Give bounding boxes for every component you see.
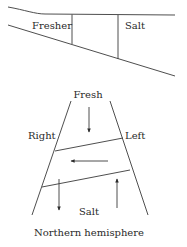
caption: Northern hemisphere (34, 227, 144, 238)
salt-label: Salt (79, 206, 99, 217)
salt-label: Salt (125, 20, 145, 31)
left-bank-line (110, 101, 148, 215)
right-bank-line (32, 101, 71, 215)
estuary-diagram: Fresher Salt Fresh Right Left Salt North… (0, 0, 187, 247)
right-label: Right (28, 130, 56, 141)
estuary-cross-section: Fresher Salt (8, 7, 175, 76)
estuary-plan-view: Fresh Right Left Salt Northern hemispher… (28, 89, 148, 238)
left-label: Left (125, 130, 145, 141)
fresher-label: Fresher (32, 20, 72, 31)
upper-isohaline-line (55, 138, 123, 151)
water-surface-line (8, 7, 175, 15)
estuary-bed-line (8, 25, 175, 76)
fresh-label: Fresh (73, 89, 103, 100)
